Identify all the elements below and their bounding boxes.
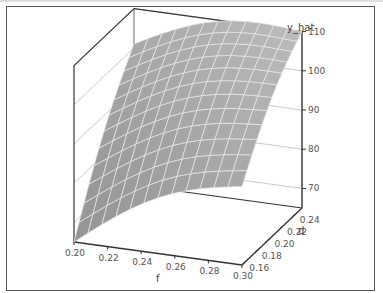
z-axis-label: y_hat: [287, 22, 314, 34]
response-surface: [74, 21, 302, 242]
svg-text:0.26: 0.26: [166, 262, 186, 272]
svg-text:100: 100: [308, 66, 325, 76]
x-axis-label: f: [156, 273, 160, 284]
svg-text:0.24: 0.24: [300, 215, 320, 225]
svg-text:70: 70: [308, 183, 320, 193]
svg-text:0.24: 0.24: [132, 257, 152, 267]
svg-text:0.18: 0.18: [262, 251, 282, 261]
svg-text:0.20: 0.20: [65, 248, 85, 258]
y-axis-label: d: [298, 225, 304, 236]
svg-text:0.28: 0.28: [199, 266, 219, 276]
svg-text:90: 90: [308, 105, 320, 115]
svg-text:0.22: 0.22: [99, 253, 119, 263]
svg-text:80: 80: [308, 144, 320, 154]
svg-text:0.16: 0.16: [249, 263, 269, 273]
svg-text:0.20: 0.20: [274, 239, 294, 249]
surface-plot: 7080901001100.200.220.240.260.280.300.16…: [0, 0, 383, 293]
